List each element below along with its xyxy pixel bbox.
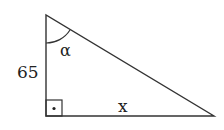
triangle <box>46 15 214 116</box>
right-angle-dot <box>52 107 55 110</box>
unknown-side-label: x <box>118 96 128 116</box>
right-triangle-diagram: α 65 x <box>0 0 224 130</box>
angle-label: α <box>60 41 71 60</box>
side-length-label: 65 <box>17 62 39 82</box>
